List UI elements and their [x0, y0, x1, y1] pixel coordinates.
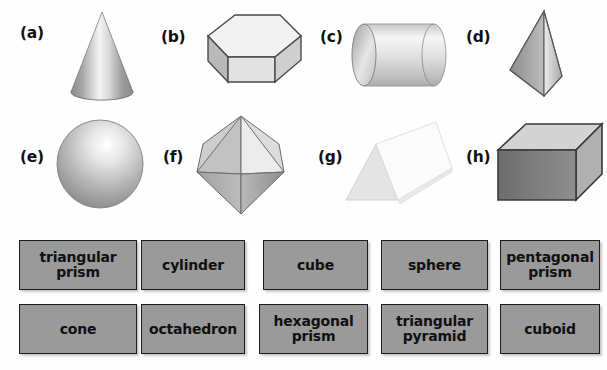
shape-cell-g: (g)	[310, 112, 460, 220]
answer-box-label: triangular pyramid	[396, 314, 473, 344]
answer-box-hexagonal-prism[interactable]: hexagonal prism	[259, 304, 368, 354]
answer-box-octahedron[interactable]: octahedron	[141, 304, 245, 354]
cylinder-icon	[350, 12, 450, 98]
shape-letter-e: (e)	[20, 148, 44, 166]
answer-bank-row: triangular prism cylinder cube sphere pe…	[0, 240, 607, 290]
answer-box-cylinder[interactable]: cylinder	[141, 240, 245, 290]
answer-box-label: cuboid	[524, 322, 576, 337]
hexagonal-prism-icon	[180, 10, 305, 102]
answer-box-triangular-pyramid[interactable]: triangular pyramid	[381, 304, 488, 354]
shape-cell-c: (c)	[310, 6, 452, 110]
sphere-icon	[52, 114, 148, 214]
shape-cell-e: (e)	[8, 112, 153, 220]
shape-letter-f: (f)	[163, 148, 183, 166]
answer-box-label: cone	[60, 322, 97, 337]
answer-box-label: pentagonal prism	[506, 250, 593, 280]
shape-cell-h: (h)	[462, 112, 607, 220]
answer-box-cuboid[interactable]: cuboid	[500, 304, 600, 354]
shape-cell-d: (d)	[458, 6, 603, 110]
answer-box-label: hexagonal prism	[274, 314, 354, 344]
answer-box-cone[interactable]: cone	[19, 304, 137, 354]
answer-bank: triangular prism cylinder cube sphere pe…	[0, 236, 607, 364]
triangular-pyramid-icon	[500, 8, 590, 106]
answer-box-label: octahedron	[149, 322, 237, 337]
answer-box-triangular-prism[interactable]: triangular prism	[19, 240, 137, 290]
shape-letter-h: (h)	[466, 148, 490, 166]
shape-cell-b: (b)	[155, 6, 305, 110]
shape-letter-c: (c)	[320, 28, 342, 46]
answer-box-label: cube	[297, 258, 334, 273]
triangular-prism-icon	[340, 116, 462, 212]
shape-letter-a: (a)	[20, 24, 44, 42]
shape-letter-g: (g)	[318, 148, 342, 166]
answer-box-pentagonal-prism[interactable]: pentagonal prism	[500, 240, 600, 290]
answer-box-sphere[interactable]: sphere	[381, 240, 488, 290]
answer-box-cube[interactable]: cube	[263, 240, 368, 290]
shape-letter-d: (d)	[466, 28, 490, 46]
octahedron-icon	[187, 112, 295, 218]
answer-bank-row: cone octahedron hexagonal prism triangul…	[0, 304, 607, 354]
geometry-worksheet: (a)	[0, 0, 607, 370]
answer-box-label: sphere	[408, 258, 461, 273]
shape-cell-f: (f)	[155, 112, 305, 220]
answer-box-label: cylinder	[162, 258, 224, 273]
cuboid-icon	[494, 118, 606, 210]
shape-cell-a: (a)	[8, 6, 153, 110]
cone-icon	[52, 8, 152, 108]
answer-box-label: triangular prism	[40, 250, 117, 280]
